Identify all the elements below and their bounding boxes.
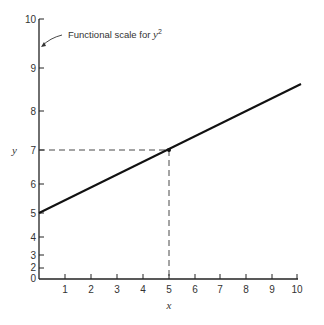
- svg-text:5: 5: [166, 284, 172, 295]
- svg-text:2: 2: [30, 262, 36, 273]
- svg-text:4: 4: [140, 284, 146, 295]
- svg-text:9: 9: [269, 284, 275, 295]
- chart: 10 9 8 7 6 5 4 3 2 0 1 2 3 4 5 6 7 8 9 1…: [0, 0, 324, 325]
- svg-text:8: 8: [243, 284, 249, 295]
- svg-text:8: 8: [30, 106, 36, 117]
- marked-point: [167, 148, 171, 152]
- y-ticks: [39, 19, 44, 268]
- svg-text:5: 5: [30, 208, 36, 219]
- x-tick-labels: 1 2 3 4 5 6 7 8 9 10: [62, 284, 303, 295]
- svg-text:10: 10: [25, 14, 37, 25]
- svg-text:6: 6: [192, 284, 198, 295]
- svg-text:1: 1: [62, 284, 68, 295]
- x-ticks: [65, 274, 297, 279]
- y-tick-labels: 10 9 8 7 6 5 4 3 2 0: [25, 14, 37, 284]
- annotation-text: Functional scale for y2: [68, 28, 162, 40]
- svg-text:9: 9: [30, 63, 36, 74]
- svg-text:6: 6: [30, 179, 36, 190]
- x-axis-label: x: [166, 299, 172, 311]
- svg-text:2: 2: [88, 284, 94, 295]
- svg-text:7: 7: [217, 284, 223, 295]
- svg-text:3: 3: [114, 284, 120, 295]
- svg-text:4: 4: [30, 232, 36, 243]
- svg-text:10: 10: [291, 284, 303, 295]
- svg-text:3: 3: [30, 250, 36, 261]
- svg-text:0: 0: [30, 273, 36, 284]
- y-axis-label: y: [11, 144, 17, 156]
- svg-text:7: 7: [30, 145, 36, 156]
